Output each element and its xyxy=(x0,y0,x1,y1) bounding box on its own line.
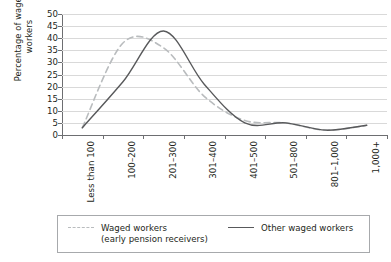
x-axis-tick-label: 100–200 xyxy=(127,141,137,179)
data-series-lines xyxy=(62,14,387,135)
x-axis-tick-label: 801–1,000 xyxy=(330,141,340,187)
x-axis-tick-label: 1,000+ xyxy=(371,141,381,173)
y-axis-tick-label: 25 xyxy=(36,70,58,80)
x-axis-tick xyxy=(62,135,63,139)
plot-area: 05101520253035404550 Less than 100100–20… xyxy=(62,14,387,135)
x-axis-tick xyxy=(387,135,388,139)
y-axis-tick-label: 45 xyxy=(36,21,58,31)
x-axis-tick xyxy=(143,135,144,139)
y-axis-tick-label: 15 xyxy=(36,94,58,104)
x-axis-tick xyxy=(346,135,347,139)
series-line xyxy=(82,31,366,130)
legend-label-other-waged-workers: Other waged workers xyxy=(261,223,353,234)
legend-label-waged-workers: Waged workers xyxy=(101,223,167,234)
x-axis-tick-label: 201–300 xyxy=(168,141,178,179)
legend-item-other-waged-workers: Other waged workers xyxy=(228,223,353,234)
x-axis-tick xyxy=(265,135,266,139)
legend-solid-line-icon xyxy=(228,227,254,228)
legend-dashed-line-icon xyxy=(68,227,94,228)
x-axis-tick-label: 501–800 xyxy=(289,141,299,179)
y-axis-tick-label: 30 xyxy=(36,57,58,67)
y-axis-title: Percentage of waged workers xyxy=(13,0,34,102)
x-axis-tick xyxy=(306,135,307,139)
y-axis-tick-label: 20 xyxy=(36,82,58,92)
chart-legend: Waged workers (early pension receivers) … xyxy=(57,215,370,253)
y-axis-tick-label: 5 xyxy=(36,118,58,128)
legend-sublabel-early-pension-receivers: (early pension receivers) xyxy=(101,234,208,245)
legend-item-waged-workers: Waged workers (early pension receivers) xyxy=(68,223,208,245)
x-axis-tick xyxy=(103,135,104,139)
y-axis-tick-label: 50 xyxy=(36,9,58,19)
y-axis-tick-label: 35 xyxy=(36,45,58,55)
x-axis-tick xyxy=(184,135,185,139)
x-axis-tick-label: 401–500 xyxy=(249,141,259,179)
x-axis-tick-label: Less than 100 xyxy=(86,141,96,203)
x-axis-tick-label: 301–400 xyxy=(208,141,218,179)
series-line xyxy=(82,36,366,130)
y-axis-tick-label: 10 xyxy=(36,106,58,116)
y-axis-tick-label: 0 xyxy=(36,130,58,140)
y-axis-tick-label: 40 xyxy=(36,33,58,43)
x-axis-tick xyxy=(225,135,226,139)
chart-figure: Percentage of waged workers 051015202530… xyxy=(0,0,391,262)
